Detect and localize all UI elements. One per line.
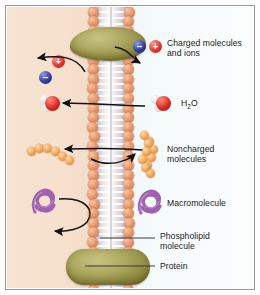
legend-label-charged: Charged molecules and ions	[167, 38, 253, 58]
legend-label-water: H2O	[181, 98, 198, 112]
phospholipid-head	[88, 285, 99, 288]
oxygen-atom	[45, 96, 60, 111]
legend-macromolecule	[135, 186, 165, 218]
legend-label-noncharged: Noncharged molecules	[167, 144, 253, 164]
macromolecule-coil	[29, 185, 59, 217]
oxygen-atom	[156, 96, 171, 111]
negative-ion: –	[39, 71, 52, 84]
phospholipid-head	[123, 285, 134, 288]
membrane-protein-bottom	[66, 249, 150, 285]
figure-root: – +	[0, 0, 260, 295]
noncharged-molecule-bead	[141, 163, 150, 172]
diagram-panel: – +	[7, 7, 253, 288]
noncharged-molecule-bead	[65, 156, 74, 165]
legend-positive-ion: +	[149, 40, 162, 53]
legend-label-macromolecule: Macromolecule	[167, 198, 253, 208]
legend-water-molecule	[151, 95, 173, 112]
legend-label-protein: Protein	[160, 261, 248, 271]
legend-negative-ion: –	[133, 40, 146, 53]
legend-label-phospholipid: Phospholipid molecule	[160, 231, 248, 251]
positive-ion: +	[52, 55, 65, 68]
water-molecule	[40, 95, 62, 112]
